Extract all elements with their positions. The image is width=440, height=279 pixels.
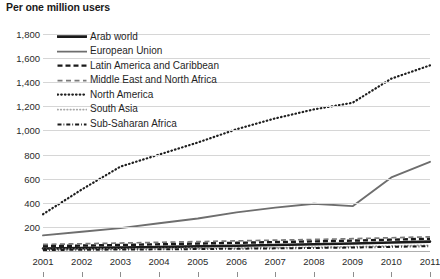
legend-line-swatch <box>57 29 87 44</box>
x-axis-tick-label: 2005 <box>187 256 208 267</box>
x-axis-tick-label: 2007 <box>265 256 286 267</box>
gridline <box>43 179 430 180</box>
x-axis-tick-label: 2008 <box>303 256 324 267</box>
x-axis-tick-label: 2004 <box>149 256 170 267</box>
x-axis-tick <box>120 272 121 277</box>
legend-line-swatch <box>57 73 87 88</box>
legend-item: South Asia <box>57 102 307 117</box>
chart-title: Per one million users <box>6 1 110 13</box>
legend-line-swatch <box>57 117 87 132</box>
legend-item: North America <box>57 87 307 102</box>
x-axis-tick-label: 2001 <box>32 256 53 267</box>
y-axis-tick-label: 1,000 <box>0 125 40 136</box>
gridline <box>43 155 430 156</box>
gridline <box>43 203 430 204</box>
legend-item: Middle East and North Africa <box>57 73 307 88</box>
x-axis-tick <box>159 272 160 277</box>
y-axis-tick-label: 800 <box>0 149 40 160</box>
legend-item-label: South Asia <box>90 102 138 116</box>
x-axis-tick-label: 2006 <box>226 256 247 267</box>
y-axis-tick-label: 200 <box>0 221 40 232</box>
x-axis-tick <box>43 272 44 277</box>
x-axis-tick <box>237 272 238 277</box>
x-axis-tick <box>314 272 315 277</box>
y-axis-labels: 1,8001,6001,4001,2001,000800600400200 <box>0 22 40 251</box>
legend-item: Arab world <box>57 29 307 44</box>
legend-item-label: Sub-Saharan Africa <box>90 117 177 131</box>
x-axis-tick <box>82 272 83 277</box>
y-axis-tick-label: 1,400 <box>0 77 40 88</box>
x-axis-tick-label: 2010 <box>381 256 402 267</box>
legend-item: Latin America and Caribbean <box>57 58 307 73</box>
x-axis-line <box>43 251 430 252</box>
legend-item-label: European Union <box>90 44 162 58</box>
legend-item: Sub-Saharan Africa <box>57 117 307 132</box>
x-axis-tick-label: 2011 <box>420 256 440 267</box>
x-axis-labels: 2001200220032004200520062007200820092010… <box>43 256 439 272</box>
y-axis-tick-label: 400 <box>0 197 40 208</box>
legend-line-swatch <box>57 87 87 102</box>
x-axis-tick <box>353 272 354 277</box>
x-axis-tick <box>198 272 199 277</box>
legend-item-label: North America <box>90 88 153 102</box>
y-axis-tick-label: 1,200 <box>0 101 40 112</box>
legend-line-swatch <box>57 58 87 73</box>
gridline <box>43 227 430 228</box>
x-axis-tick <box>275 272 276 277</box>
legend-item: European Union <box>57 44 307 59</box>
chart-legend: Arab worldEuropean UnionLatin America an… <box>57 29 307 131</box>
series-line <box>43 162 430 236</box>
legend-item-label: Middle East and North Africa <box>90 73 217 87</box>
x-axis-tick <box>430 272 431 277</box>
x-axis-tick <box>391 272 392 277</box>
y-axis-tick-label: 600 <box>0 173 40 184</box>
y-axis-tick-label: 1,600 <box>0 53 40 64</box>
x-axis-tick-label: 2009 <box>342 256 363 267</box>
x-axis-tick-label: 2003 <box>110 256 131 267</box>
legend-item-label: Latin America and Caribbean <box>90 59 219 73</box>
y-axis-tick-label: 1,800 <box>0 29 40 40</box>
x-axis-tick-label: 2002 <box>71 256 92 267</box>
legend-line-swatch <box>57 102 87 117</box>
legend-item-label: Arab world <box>90 30 138 44</box>
legend-line-swatch <box>57 44 87 59</box>
